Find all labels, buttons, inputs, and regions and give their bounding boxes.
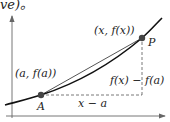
vertical-difference-label: f(x) − f(a): [110, 75, 164, 86]
point-a: [38, 92, 44, 98]
point-p: [139, 35, 145, 41]
point-a-coordinates-label: (a, f(a)): [15, 68, 56, 79]
point-p-label: P: [148, 37, 155, 48]
secant-line-diagram: ve)。 (x, f(x)) P (a, f(a)) A f(x) − f(a)…: [0, 0, 170, 122]
horizontal-difference-label: x − a: [78, 98, 107, 109]
function-curve: [5, 18, 162, 105]
point-a-label: A: [37, 101, 45, 112]
point-p-coordinates-label: (x, f(x)): [94, 25, 135, 36]
